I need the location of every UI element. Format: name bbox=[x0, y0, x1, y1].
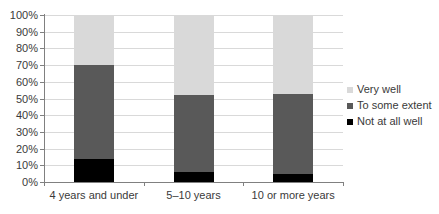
stacked-bar-3 bbox=[273, 15, 313, 182]
y-tick-label-80: 80% bbox=[0, 42, 38, 54]
stacked-bar-1 bbox=[74, 15, 114, 182]
bar-segment bbox=[174, 95, 214, 172]
stacked-bar-2 bbox=[174, 15, 214, 182]
y-tick-label-100: 100% bbox=[0, 9, 38, 21]
y-tick-label-10: 10% bbox=[0, 159, 38, 171]
bar-segment bbox=[74, 65, 114, 159]
legend-swatch-not-at-all-well-icon bbox=[347, 119, 353, 125]
y-tick-label-70: 70% bbox=[0, 59, 38, 71]
x-label-category-3: 10 or more years bbox=[243, 189, 343, 201]
legend-label-not-at-all-well: Not at all well bbox=[357, 116, 422, 127]
legend-swatch-very-well-icon bbox=[347, 87, 353, 93]
legend-item-to-some-extent: To some extent bbox=[347, 100, 432, 111]
legend-label-very-well: Very well bbox=[357, 84, 401, 95]
x-label-category-2: 5–10 years bbox=[144, 189, 244, 201]
x-axis bbox=[44, 182, 343, 183]
bar-segment bbox=[74, 15, 114, 65]
y-tick-label-20: 20% bbox=[0, 143, 38, 155]
y-tick-label-0: 0% bbox=[0, 176, 38, 188]
legend-label-to-some-extent: To some extent bbox=[357, 100, 432, 111]
x-tick-mark bbox=[343, 182, 344, 186]
x-axis-labels: 4 years and under 5–10 years 10 or more … bbox=[44, 189, 343, 201]
legend: Very well To some extent Not at all well bbox=[347, 84, 432, 127]
bar-segment bbox=[273, 174, 313, 182]
legend-item-very-well: Very well bbox=[347, 84, 432, 95]
legend-item-not-at-all-well: Not at all well bbox=[347, 116, 432, 127]
bar-segment bbox=[174, 15, 214, 95]
x-tick-mark bbox=[243, 182, 244, 186]
y-axis bbox=[44, 14, 45, 182]
x-tick-mark bbox=[144, 182, 145, 186]
stacked-bar-chart: 0%10%20%30%40%50%60%70%80%90%100% 4 year… bbox=[0, 0, 439, 214]
y-tick-label-30: 30% bbox=[0, 126, 38, 138]
x-tick-mark bbox=[44, 182, 45, 186]
bar-segment bbox=[273, 94, 313, 174]
bar-segment bbox=[273, 15, 313, 93]
x-label-category-1: 4 years and under bbox=[44, 189, 144, 201]
legend-swatch-to-some-extent-icon bbox=[347, 103, 353, 109]
y-tick-label-50: 50% bbox=[0, 93, 38, 105]
y-tick-label-90: 90% bbox=[0, 26, 38, 38]
y-tick-label-40: 40% bbox=[0, 109, 38, 121]
bar-segment bbox=[74, 159, 114, 182]
y-tick-label-60: 60% bbox=[0, 76, 38, 88]
bar-segment bbox=[174, 172, 214, 182]
